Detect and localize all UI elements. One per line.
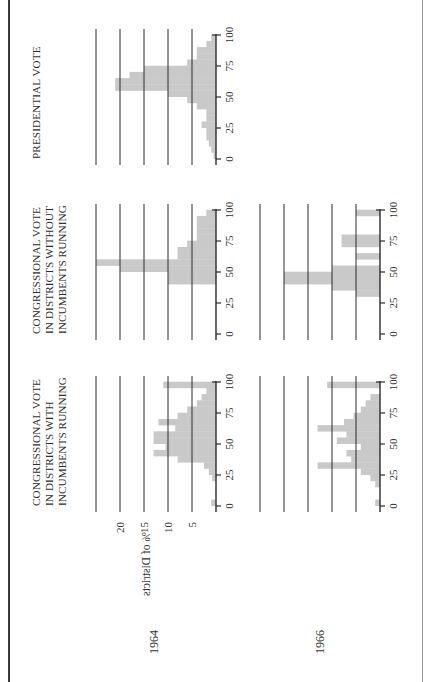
- histogram-bar: [206, 109, 216, 116]
- histogram-bar: [197, 235, 216, 242]
- histogram-bar: [154, 431, 216, 438]
- histogram-bar: [327, 382, 380, 389]
- x-axis-tick-label: 75: [387, 407, 399, 419]
- histogram-bar: [211, 500, 216, 507]
- x-axis-tick-label: 50: [223, 438, 235, 450]
- svg-text:INCUMBENTS RUNNING: INCUMBENTS RUNNING: [56, 377, 68, 506]
- svg-text:5: 5: [186, 522, 198, 528]
- x-axis-tick-label: 0: [223, 331, 235, 337]
- x-axis-tick-label: 50: [223, 266, 235, 278]
- histogram-bar: [175, 425, 216, 432]
- histogram-bar: [361, 444, 380, 451]
- x-axis-tick-label: 100: [223, 373, 235, 390]
- panel-1966-with-incumbents: 0255075100: [260, 373, 399, 512]
- x-axis-tick-label: 50: [223, 91, 235, 103]
- histogram-bar: [202, 122, 216, 129]
- panel-1964-without-incumbents: 0255075100: [96, 201, 235, 340]
- x-axis-tick-label: 25: [387, 297, 399, 309]
- histogram-bar: [197, 400, 216, 407]
- svg-text:10: 10: [162, 522, 174, 534]
- histogram-bar: [197, 53, 216, 60]
- histogram-bar: [206, 134, 216, 141]
- rotated-figure: CONGRESSIONAL VOTE IN DISTRICTS WITH INC…: [0, 0, 427, 682]
- column-title-presidential: PRESIDENTIAL VOTE: [30, 46, 42, 159]
- x-axis-tick-label: 25: [223, 297, 235, 309]
- row-label-1964: 1964: [147, 630, 161, 654]
- column-title-without-incumbents: CONGRESSIONAL VOTE IN DISTRICTS WITHOUT …: [30, 205, 68, 334]
- histogram-bar: [337, 438, 380, 445]
- x-axis-tick-label: 0: [223, 156, 235, 162]
- histogram-bar: [202, 394, 216, 401]
- x-axis-tick-label: 25: [387, 469, 399, 481]
- x-axis-tick-label: 100: [387, 373, 399, 390]
- histogram-bar: [166, 444, 216, 451]
- histogram-bar: [178, 413, 216, 420]
- histogram-bar: [115, 78, 216, 85]
- histogram-bar: [197, 103, 216, 110]
- histogram-bar: [370, 394, 380, 401]
- x-axis-tick-label: 75: [223, 235, 235, 247]
- histogram-grid: CONGRESSIONAL VOTE IN DISTRICTS WITH INC…: [0, 0, 427, 682]
- panel-1966-without-incumbents: 0255075100: [260, 201, 399, 340]
- histogram-bar: [206, 388, 216, 395]
- x-axis-tick-label: 25: [223, 469, 235, 481]
- histogram-bar: [206, 41, 216, 48]
- x-axis-tick-label: 50: [387, 266, 399, 278]
- histogram-bar: [206, 210, 216, 217]
- histogram-bar: [204, 462, 216, 469]
- histogram-bar: [346, 431, 380, 438]
- histogram-bar: [342, 235, 380, 242]
- histogram-bar: [354, 413, 380, 420]
- x-axis-tick-label: 0: [223, 503, 235, 509]
- svg-text:PRESIDENTIAL VOTE: PRESIDENTIAL VOTE: [30, 46, 42, 159]
- x-axis-tick-label: 25: [223, 122, 235, 134]
- page: CONGRESSIONAL VOTE IN DISTRICTS WITH INC…: [0, 0, 427, 682]
- histogram-bar: [178, 247, 216, 254]
- histogram-bar: [361, 469, 380, 476]
- row-label-1966: 1966: [313, 630, 327, 654]
- histogram-bar: [356, 210, 380, 217]
- svg-text:IN DISTRICTS WITH: IN DISTRICTS WITH: [43, 401, 55, 506]
- y-axis-ticks-1964: 5 10 15 20: [114, 522, 198, 534]
- histogram-bar: [115, 84, 216, 91]
- histogram-bar: [318, 462, 380, 469]
- x-axis-tick-label: 75: [223, 60, 235, 72]
- histogram-bar: [197, 222, 216, 229]
- histogram-bar: [178, 253, 216, 260]
- svg-text:INCUMBENTS RUNNING: INCUMBENTS RUNNING: [56, 205, 68, 334]
- svg-text:CONGRESSIONAL VOTE: CONGRESSIONAL VOTE: [30, 379, 42, 506]
- histogram-bar: [318, 425, 380, 432]
- histogram-bar: [197, 47, 216, 54]
- histogram-bar: [130, 72, 216, 79]
- histogram-bar: [158, 419, 216, 426]
- histogram-bar: [211, 35, 216, 42]
- histogram-bar: [206, 128, 216, 135]
- x-axis-tick-label: 0: [387, 503, 399, 509]
- histogram-bar: [356, 290, 380, 297]
- histogram-bar: [206, 115, 216, 122]
- histogram-bar: [346, 450, 380, 457]
- histogram-bar: [154, 450, 216, 457]
- histogram-bar: [370, 475, 380, 482]
- x-axis-tick-label: 0: [387, 331, 399, 337]
- svg-text:IN DISTRICTS WITHOUT: IN DISTRICTS WITHOUT: [43, 206, 55, 334]
- histogram-bar: [96, 259, 216, 266]
- histogram-bar: [163, 382, 216, 389]
- x-axis-tick-label: 100: [223, 26, 235, 43]
- x-axis-tick-label: 75: [223, 407, 235, 419]
- histogram-bar: [344, 419, 380, 426]
- histogram-bar: [342, 241, 380, 248]
- x-axis-tick-label: 100: [223, 201, 235, 218]
- histogram-bar: [197, 228, 216, 235]
- x-axis-tick-label: 50: [387, 438, 399, 450]
- histogram-bar: [154, 438, 216, 445]
- histogram-bar: [356, 253, 380, 260]
- histogram-bar: [375, 500, 380, 507]
- histogram-bar: [197, 216, 216, 223]
- histogram-bar: [178, 456, 216, 463]
- histogram-bar: [209, 140, 216, 147]
- panel-1964-presidential: 0255075100: [96, 26, 235, 165]
- svg-text:CONGRESSIONAL VOTE: CONGRESSIONAL VOTE: [30, 207, 42, 334]
- histogram-bar: [209, 469, 216, 476]
- column-title-with-incumbents: CONGRESSIONAL VOTE IN DISTRICTS WITH INC…: [30, 377, 68, 506]
